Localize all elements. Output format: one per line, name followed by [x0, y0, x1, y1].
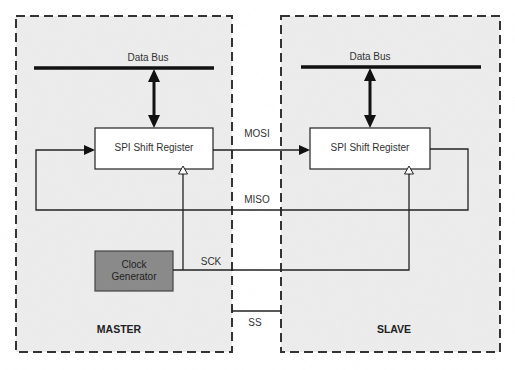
ss-label: SS [248, 317, 261, 328]
miso-label: MISO [244, 194, 270, 205]
master-data-bus-label: Data Bus [127, 52, 168, 63]
master-label: MASTER [97, 323, 141, 335]
clock-label-line2: Generator [111, 271, 156, 284]
sck-label: SCK [201, 256, 222, 267]
slave-label: SLAVE [377, 323, 411, 335]
mosi-label: MOSI [244, 128, 270, 139]
slave-data-bus-label: Data Bus [349, 51, 390, 62]
master-shift-register-label: SPI Shift Register [95, 128, 213, 169]
slave-shift-register-label: SPI Shift Register [310, 128, 430, 169]
clock-label-line1: Clock [121, 259, 146, 272]
clock-generator-label: Clock Generator [95, 251, 173, 291]
spi-diagram [0, 0, 515, 370]
